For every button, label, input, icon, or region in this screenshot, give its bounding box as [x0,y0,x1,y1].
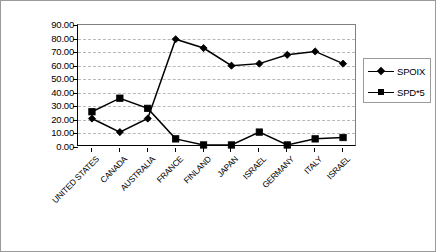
y-tick-label: 60.00 [51,59,74,70]
x-tick-label: UNITED STATES [50,154,101,205]
legend-label: SPD*5 [397,87,425,98]
x-tick-mark [203,148,204,152]
data-point-marker [116,128,123,135]
data-point-marker [144,115,151,122]
legend-square-marker-icon [378,89,384,95]
x-tick-mark [286,148,287,152]
x-tick-mark [147,148,148,152]
y-tick-mark [73,52,78,53]
y-tick-label: 40.00 [51,86,74,97]
y-tick-mark [73,25,78,26]
x-tick-label: ISRAEL [325,154,352,181]
x-axis: UNITED STATESCANADAAUSTRALIAFRANCEFINLAN… [77,148,356,238]
legend-marker-diamond-icon [368,65,394,77]
x-tick-label: ITALY [302,154,324,176]
series-line-spd-5 [92,98,343,145]
data-point-marker [200,44,207,51]
y-tick-label: 70.00 [51,46,74,57]
legend-marker-square-icon [368,86,394,98]
data-point-marker [312,136,318,142]
x-tick-label: FINLAND [181,154,212,185]
y-tick-label: 80.00 [51,32,74,43]
data-point-marker [256,129,262,135]
chart-legend: SPOIXSPD*5 [363,58,431,103]
x-tick-mark [175,148,176,152]
data-point-marker [284,51,291,58]
y-tick-label: 10.00 [51,127,74,138]
data-point-marker [88,115,95,122]
x-tick-label: FRANCE [154,154,185,185]
y-tick-mark [73,79,78,80]
y-tick-mark [73,133,78,134]
legend-entry-spoix[interactable]: SPOIX [368,64,425,78]
y-tick-label: 90.00 [51,19,74,30]
legend-label: SPOIX [397,66,425,77]
data-point-marker [89,109,95,115]
y-tick-mark [73,93,78,94]
y-tick-mark [73,120,78,121]
data-point-marker [145,105,151,111]
y-axis: 0.0010.0020.0030.0040.0050.0060.0070.008… [31,24,74,146]
data-point-marker [340,134,346,140]
legend-entry-spd-5[interactable]: SPD*5 [368,85,425,99]
y-tick-label: 0.00 [56,141,74,152]
data-point-marker [228,62,235,69]
x-tick-mark [119,148,120,152]
y-tick-label: 50.00 [51,73,74,84]
y-tick-mark [73,66,78,67]
x-tick-mark [314,148,315,152]
y-tick-label: 30.00 [51,100,74,111]
plot-area [77,24,356,146]
y-tick-mark [73,106,78,107]
series-line-spoix [92,39,343,132]
chart-container: 0.0010.0020.0030.0040.0050.0060.0070.008… [0,0,436,252]
data-point-marker [312,48,319,55]
x-tick-mark [258,148,259,152]
x-tick-mark [91,148,92,152]
data-point-marker [256,60,263,67]
data-point-marker [172,136,178,142]
x-tick-mark [342,148,343,152]
y-tick-mark [73,39,78,40]
series-layer [78,25,357,147]
data-point-marker [117,95,123,101]
data-point-marker [172,36,179,43]
y-tick-label: 20.00 [51,113,74,124]
data-point-marker [339,60,346,67]
legend-diamond-marker-icon [377,67,385,75]
x-tick-label: JAPAN [215,154,240,179]
x-tick-mark [230,148,231,152]
